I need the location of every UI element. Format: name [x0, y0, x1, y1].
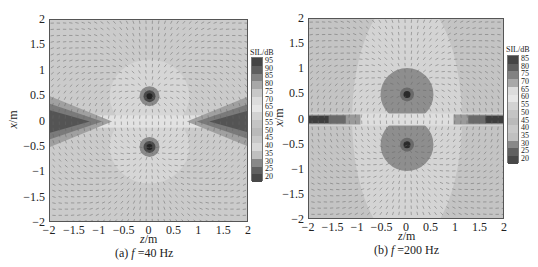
colorbar-swatch	[508, 110, 518, 118]
y-tick-label: 2	[274, 12, 304, 24]
colorbar-swatch	[508, 87, 518, 95]
colorbar-swatch	[508, 79, 518, 87]
y-tick-label: −1	[274, 163, 304, 175]
colorbar-swatch	[252, 167, 262, 175]
colorbar-swatch	[508, 118, 518, 126]
colorbar-b	[507, 55, 519, 163]
colorbar-swatch	[252, 174, 262, 182]
colorbar-swatch	[508, 156, 518, 164]
y-axis-label-a: x/m	[6, 111, 21, 129]
x-axis-label-b: z/m	[398, 229, 415, 244]
colorbar-swatch	[252, 89, 262, 97]
panel-b: 21.510.50−0.5−1−1.5−2 −2−1.5−1−0.500.511…	[270, 0, 538, 267]
colorbar-swatch	[252, 128, 262, 136]
colorbar-swatch	[508, 141, 518, 149]
colorbar-swatch	[252, 120, 262, 128]
y-tick-label: −1.5	[15, 191, 45, 203]
y-tick-label: 0.5	[15, 89, 45, 101]
contour-plot-a	[49, 19, 248, 222]
x-tick-label: 2	[489, 221, 519, 233]
colorbar-title-b: SIL/dB	[506, 45, 530, 54]
y-tick-label: 1	[15, 64, 45, 76]
colorbar-swatch	[508, 133, 518, 141]
colorbar-swatch	[508, 64, 518, 72]
colorbar-swatch	[508, 125, 518, 133]
colorbar-swatch	[252, 81, 262, 89]
y-tick-label: −1	[15, 165, 45, 177]
colorbar-swatch	[508, 71, 518, 79]
panel-a: 21.510.50−0.5−1−1.5−2 −2−1.5−1−0.500.511…	[0, 0, 270, 267]
colorbar-swatch	[252, 143, 262, 151]
colorbar-swatch	[508, 56, 518, 64]
y-tick-label: −0.5	[15, 140, 45, 152]
colorbar-swatch	[508, 95, 518, 103]
colorbar-swatch	[252, 112, 262, 120]
colorbar-swatch	[508, 102, 518, 110]
x-tick-label: 2	[233, 224, 263, 236]
y-axis-label-b: x/m	[272, 109, 287, 127]
colorbar-swatch	[252, 66, 262, 74]
y-tick-label: −0.5	[274, 138, 304, 150]
colorbar-swatch	[252, 97, 262, 105]
caption-b: (b) f =200 Hz	[374, 243, 439, 258]
x-axis-label-a: z/m	[140, 232, 157, 247]
y-tick-label: −1.5	[274, 188, 304, 200]
colorbar-swatch	[252, 105, 262, 113]
contour-plot-b	[308, 18, 504, 219]
colorbar-swatch	[252, 151, 262, 159]
colorbar-swatch	[252, 58, 262, 66]
colorbar-swatch	[252, 159, 262, 167]
caption-a: (a) f =40 Hz	[115, 246, 173, 261]
colorbar-swatch	[252, 74, 262, 82]
y-tick-label: 1.5	[15, 38, 45, 50]
colorbar-swatch	[508, 148, 518, 156]
y-tick-label: 1	[274, 62, 304, 74]
colorbar-level-label: 20	[521, 155, 529, 163]
colorbar-swatch	[252, 136, 262, 144]
y-tick-label: 0.5	[274, 87, 304, 99]
colorbar-a	[251, 57, 263, 181]
y-tick-label: 2	[15, 13, 45, 25]
y-tick-label: 1.5	[274, 37, 304, 49]
